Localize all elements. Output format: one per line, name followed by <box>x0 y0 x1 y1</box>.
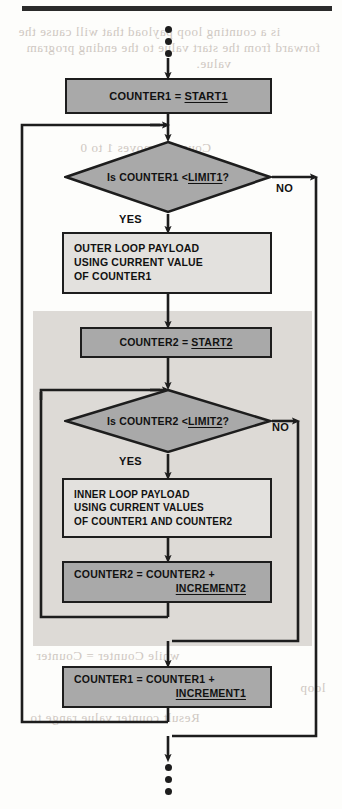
inner-payload-line2: USING CURRENT VALUES <box>74 501 260 514</box>
counter1-start-prefix: COUNTER1 = <box>109 90 184 102</box>
inner-payload-line3: OF COUNTER1 AND COUNTER2 <box>74 515 260 528</box>
outer-decision-suffix: ? <box>222 171 229 183</box>
counter1-start-value: START1 <box>185 90 228 102</box>
counter2-increment-line1: COUNTER2 = COUNTER2 + <box>74 568 260 582</box>
outer-decision-text: Is COUNTER1 < <box>107 171 188 183</box>
counter1-increment-line1: COUNTER1 = COUNTER1 + <box>74 673 260 687</box>
node-outer-payload[interactable]: OUTER LOOP PAYLOAD USING CURRENT VALUE O… <box>62 232 272 294</box>
node-counter1-start[interactable]: COUNTER1 = START1 <box>65 78 272 114</box>
node-counter2-start[interactable]: COUNTER2 = START2 <box>80 327 272 358</box>
outer-decision-limit: LIMIT1 <box>188 171 222 183</box>
edge-label-yes-inner: YES <box>119 455 142 467</box>
counter2-start-value: START2 <box>191 336 232 348</box>
inner-payload-line1: INNER LOOP PAYLOAD <box>74 488 260 501</box>
node-counter1-increment[interactable]: COUNTER1 = COUNTER1 + INCREMENT1 <box>62 666 272 708</box>
ellipsis-top-icon <box>164 26 173 62</box>
flowchart-page: is a counting loop payload that will cau… <box>0 0 342 809</box>
node-outer-decision[interactable]: Is COUNTER1 < LIMIT1 ? <box>64 140 272 214</box>
edge-label-no-outer: NO <box>276 182 293 194</box>
inner-decision-suffix: ? <box>222 415 229 427</box>
counter2-increment-line2: INCREMENT2 <box>74 582 260 596</box>
outer-payload-line1: OUTER LOOP PAYLOAD <box>74 242 260 256</box>
node-inner-decision[interactable]: Is COUNTER2 < LIMIT2 ? <box>64 388 272 454</box>
outer-payload-line3: OF COUNTER1 <box>74 270 260 284</box>
node-inner-payload[interactable]: INNER LOOP PAYLOAD USING CURRENT VALUES … <box>62 478 272 538</box>
counter1-increment-line2: INCREMENT1 <box>74 687 260 701</box>
counter2-start-prefix: COUNTER2 = <box>119 336 191 348</box>
node-counter2-increment[interactable]: COUNTER2 = COUNTER2 + INCREMENT2 <box>62 561 272 603</box>
ellipsis-bottom-icon <box>164 764 173 800</box>
edge-label-yes-outer: YES <box>119 213 142 225</box>
edge-label-no-inner: NO <box>272 421 289 433</box>
inner-decision-text: Is COUNTER2 < <box>107 415 188 427</box>
outer-payload-line2: USING CURRENT VALUE <box>74 256 260 270</box>
inner-decision-limit: LIMIT2 <box>188 415 222 427</box>
